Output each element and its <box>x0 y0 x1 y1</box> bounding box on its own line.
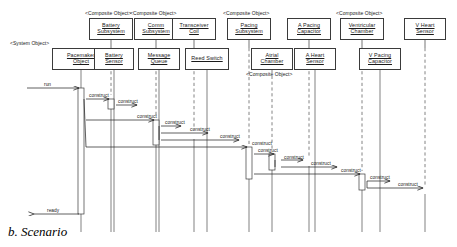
message-label-m12: construct <box>370 175 390 180</box>
message-label-m8: construct <box>258 148 278 153</box>
lifelines-solid <box>81 70 425 232</box>
activation-battery-subsystem <box>108 99 114 109</box>
object-label-line2: Chamber <box>261 59 284 65</box>
object-box-atrial_ch[interactable]: AtrialChamber <box>251 48 293 70</box>
object-box-v_heart_sen[interactable]: V HeartSensor <box>404 18 446 40</box>
message-label-m1: construct <box>89 93 109 98</box>
object-box-battery_sen[interactable]: BatterySensor <box>94 48 134 70</box>
message-label-m14: ready <box>47 208 59 213</box>
object-box-v_pacing_cap[interactable]: V PacingCapacitor <box>359 48 401 70</box>
object-box-battery_sub[interactable]: BatterySubsystem <box>89 18 133 40</box>
message-label-m9: construct <box>284 155 304 160</box>
stereotype-label-vent_ch: <Composite Object> <box>336 10 382 16</box>
activation-comm-subsystem <box>153 120 159 145</box>
object-label-line2: Sensor <box>416 29 434 35</box>
message-label-m4: construct <box>165 120 185 125</box>
object-box-a_pacing_cap[interactable]: A PacingCapacitor <box>287 18 331 40</box>
stereotype-label-atrial_ch: <Composite Object> <box>246 71 292 77</box>
message-arrows <box>27 88 423 214</box>
activation-bars <box>78 88 365 214</box>
stereotype-label-comm_sub: <Composite Object> <box>130 10 176 16</box>
message-label-m11: construct <box>341 168 361 173</box>
stereotype-label-pacemaker: <System Object> <box>10 40 49 46</box>
activation-atrial-chamber <box>269 154 275 170</box>
object-label-line2: Subsystem <box>142 29 170 35</box>
sequence-diagram: PacemakerObject<System Object>BatterySub… <box>0 0 457 247</box>
message-label-m5: construct <box>190 127 210 132</box>
object-label-line2: Coil <box>189 29 199 35</box>
object-box-msg_queue[interactable]: MessageQueue <box>138 48 180 70</box>
activation-pacing-subsystem <box>246 147 252 179</box>
object-box-pacing_sub[interactable]: PacingSubsystem <box>227 18 271 40</box>
object-label-line2: Subsystem <box>235 29 263 35</box>
figure-caption: b. Scenario <box>8 224 67 240</box>
object-box-vent_ch[interactable]: VentricularChamber <box>340 18 384 40</box>
activation-ventricular-chamber <box>359 174 365 190</box>
object-label-line2: Object <box>73 59 89 65</box>
stereotype-label-battery_sub: <Composite Object> <box>85 10 131 16</box>
stereotype-label-pacing_sub: <Composite Object> <box>223 10 269 16</box>
object-label-line2: Capacitor <box>368 59 392 65</box>
object-label-line2: Queue <box>151 59 168 65</box>
message-label-m0: run <box>44 82 51 87</box>
object-label-line2: Chamber <box>351 29 374 35</box>
message-label-m6: construct <box>220 134 240 139</box>
message-label-m3: construct <box>137 114 157 119</box>
object-box-transceiver[interactable]: TransceiverCoil <box>172 18 216 40</box>
object-label-line2: Subsystem <box>97 29 125 35</box>
object-label-line1: Reed Switch <box>191 56 222 62</box>
message-label-m7: construct <box>252 141 272 146</box>
message-label-m2: construct <box>118 99 138 104</box>
box-stems <box>111 40 425 48</box>
object-label-line2: Capacitor <box>297 29 321 35</box>
object-label-line2: Sensor <box>306 59 324 65</box>
message-label-m10: construct <box>311 161 331 166</box>
message-label-m13: construct <box>398 182 418 187</box>
activation-pacemaker <box>78 88 84 214</box>
object-label-line2: Sensor <box>105 59 123 65</box>
object-box-reed_switch[interactable]: Reed Switch <box>185 48 229 70</box>
object-box-a_heart_sen[interactable]: A HeartSensor <box>294 48 336 70</box>
